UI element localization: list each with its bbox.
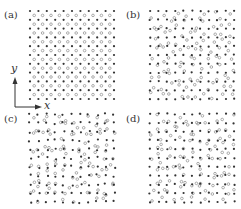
y-axis-label: y <box>11 63 17 74</box>
x-axis-label: x <box>44 100 50 111</box>
coordinate-axes <box>0 0 241 209</box>
x-axis-arrowhead <box>35 105 42 110</box>
y-axis-arrowhead <box>13 77 18 84</box>
